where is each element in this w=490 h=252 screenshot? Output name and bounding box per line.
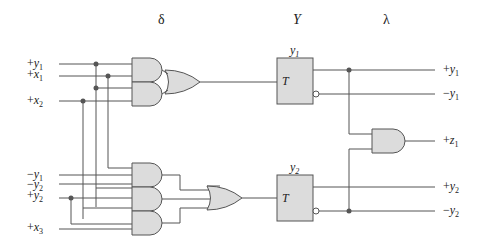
svg-text:+x3: +x3 bbox=[27, 220, 43, 236]
and-gate-top-2 bbox=[132, 82, 162, 106]
svg-text:y2: y2 bbox=[289, 160, 299, 176]
or-gate-top bbox=[165, 70, 200, 94]
t-flipflop-y1: T y1 bbox=[277, 43, 319, 104]
svg-text:+y2: +y2 bbox=[443, 179, 459, 195]
header-delta: δ bbox=[158, 12, 165, 27]
t-flipflop-y2: T y2 bbox=[277, 160, 319, 221]
or-gate-bottom bbox=[207, 186, 242, 210]
output-label-plus-z1: +z1 bbox=[443, 133, 458, 149]
header-lambda: λ bbox=[383, 12, 390, 27]
input-label-plus-x2: +x2 bbox=[27, 93, 43, 109]
output-label-minus-y1: −y1 bbox=[443, 86, 459, 102]
svg-text:y1: y1 bbox=[289, 43, 299, 59]
and-gate-top-1 bbox=[132, 58, 162, 82]
header-Y: Y bbox=[293, 12, 303, 27]
and-gate-bottom-3 bbox=[132, 211, 162, 235]
top-input-wires bbox=[59, 62, 132, 220]
output-label-plus-y1: +y1 bbox=[443, 62, 459, 78]
and-gate-output-z1 bbox=[372, 129, 405, 153]
svg-text:+y1: +y1 bbox=[443, 62, 459, 78]
output-label-plus-y2: +y2 bbox=[443, 179, 459, 195]
svg-text:+z1: +z1 bbox=[443, 133, 458, 149]
svg-text:+x2: +x2 bbox=[27, 93, 43, 109]
svg-text:−y1: −y1 bbox=[443, 86, 459, 102]
and-gate-bottom-1 bbox=[132, 163, 162, 187]
output-label-minus-y2: −y2 bbox=[443, 203, 459, 219]
logic-circuit-diagram: δ Y λ +y1 +x1 +x2 −y1 −y2 +y2 +x3 bbox=[0, 0, 490, 252]
svg-text:−y2: −y2 bbox=[443, 203, 459, 219]
input-label-plus-x3: +x3 bbox=[27, 220, 43, 236]
and-gate-bottom-2 bbox=[132, 187, 162, 211]
